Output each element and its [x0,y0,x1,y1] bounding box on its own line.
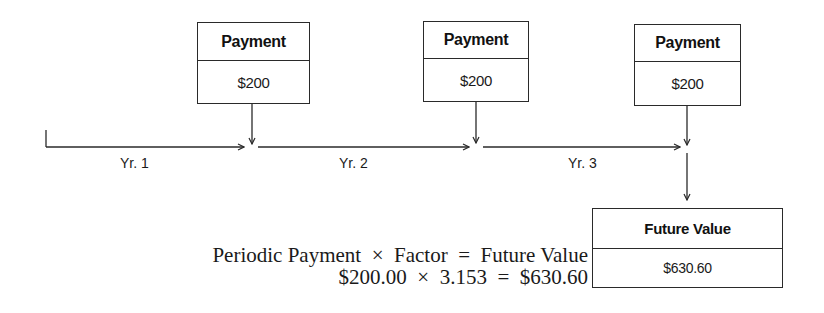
payment-header: Payment [424,22,528,59]
equation-values: $200.00 × 3.153 = $630.60 [339,265,588,290]
period-label-yr3: Yr. 3 [568,155,597,171]
payment-header: Payment [635,25,740,62]
payment-box-3: Payment $200 [634,24,741,106]
payment-amount: $200 [635,62,740,105]
payment-amount: $200 [198,61,309,103]
payment-box-1: Payment $200 [197,22,310,104]
payment-box-2: Payment $200 [423,21,529,102]
period-label-yr2: Yr. 2 [339,155,368,171]
future-value-header: Future Value [593,209,782,249]
payment-header: Payment [198,23,309,61]
period-label-yr1: Yr. 1 [120,155,149,171]
future-value-box: Future Value $630.60 [592,208,783,288]
payment-amount: $200 [424,59,528,101]
future-value-amount: $630.60 [593,249,782,287]
